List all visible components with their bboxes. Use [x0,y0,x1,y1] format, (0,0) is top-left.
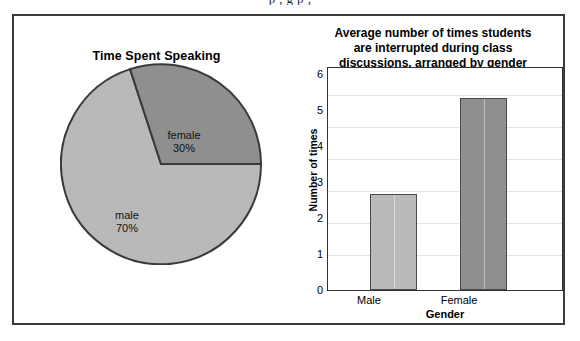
pie-chart-panel: Time Spent Speaking female 30% male 70% [14,16,299,327]
bar-chart-title-line-2: are interrupted during class [305,41,561,56]
x-tick-male: Male [334,294,404,306]
bar-chart-y-axis-ticks: 0 1 2 3 4 5 6 [301,74,323,290]
clipped-header-text: p , g p , [0,0,580,5]
gridline-4 [328,159,562,160]
bar-chart-title-line-1: Average number of times students [305,26,561,41]
x-tick-female: Female [424,294,494,306]
y-tick-1: 1 [301,249,323,260]
gridline-6 [328,95,562,96]
y-tick-2: 2 [301,213,323,224]
pie-chart-graphic [60,63,262,265]
pie-label-male-value: 70% [100,222,154,235]
y-tick-3: 3 [301,177,323,188]
gridline-1 [328,255,562,256]
pie-label-female-value: 30% [152,142,216,155]
gridline-5 [328,127,562,128]
pie-label-female: female 30% [152,129,216,155]
pie-label-male-name: male [100,209,154,222]
y-tick-5: 5 [301,105,323,116]
figure-frame: Time Spent Speaking female 30% male 70% … [12,14,565,325]
y-tick-4: 4 [301,141,323,152]
bar-male[interactable] [370,194,417,290]
bar-female-seam [484,99,485,289]
pie-chart-title: Time Spent Speaking [14,49,299,63]
bar-chart-plot-area [327,67,563,291]
bar-chart-title: Average number of times students are int… [305,26,561,71]
gridline-2 [328,223,562,224]
pie-label-female-name: female [152,129,216,142]
pie-label-male: male 70% [100,209,154,235]
bar-male-seam [394,195,395,289]
gridline-3 [328,191,562,192]
y-tick-0: 0 [301,285,323,296]
y-tick-6: 6 [301,69,323,80]
pie-svg [60,63,262,265]
bar-chart-panel: Average number of times students are int… [299,16,565,327]
bar-female[interactable] [460,98,507,290]
bar-chart-x-axis-label: Gender [327,308,563,320]
